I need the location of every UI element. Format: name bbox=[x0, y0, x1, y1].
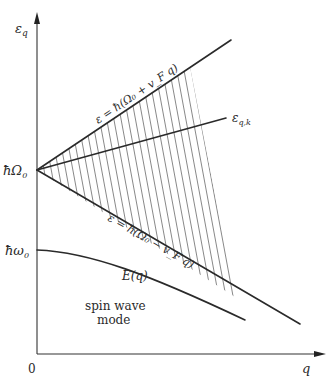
hatch-line bbox=[236, 40, 286, 310]
hatch-line bbox=[63, 40, 113, 310]
hatch-line bbox=[56, 40, 106, 310]
spin-wave-label: spin wave bbox=[85, 299, 146, 313]
hatch-line bbox=[42, 40, 92, 310]
hatch-line bbox=[250, 40, 300, 310]
hbar-Omega0-tick-label: ħΩ0 bbox=[3, 163, 27, 180]
hatch-line bbox=[171, 40, 221, 310]
upper-boundary-equation: ε = ħ(Ω₀ + v_F q) bbox=[92, 61, 180, 126]
x-axis-arrow-icon bbox=[314, 351, 326, 357]
hatch-line bbox=[229, 40, 279, 310]
hbar-omega0-tick-label: ħω0 bbox=[5, 243, 29, 260]
hatch-line bbox=[186, 40, 236, 310]
x-axis-label: q bbox=[302, 361, 310, 376]
origin-label: 0 bbox=[28, 362, 36, 376]
mode-label: mode bbox=[97, 313, 130, 327]
y-axis-label: εq bbox=[15, 21, 28, 38]
hatch-line bbox=[193, 40, 243, 310]
eps-qk-label: εq,k bbox=[232, 111, 251, 127]
hatch-line bbox=[214, 40, 264, 310]
hatch-line bbox=[78, 40, 128, 310]
spectrum-diagram: εq q 0 ħΩ0 ħω0 εq,k ε = ħ(Ω₀ + v_F q) ε … bbox=[0, 0, 336, 377]
hatch-line bbox=[27, 40, 77, 310]
hatch-line bbox=[207, 40, 257, 310]
hatch-line bbox=[49, 40, 99, 310]
hatch-line bbox=[70, 40, 120, 310]
hatch-line bbox=[243, 40, 293, 310]
E-q-label: E(q) bbox=[121, 269, 148, 283]
hatch-line bbox=[258, 40, 308, 310]
y-axis-arrow-icon bbox=[34, 12, 40, 24]
hatch-line bbox=[178, 40, 228, 310]
hatch-line bbox=[222, 40, 272, 310]
hatch-line bbox=[34, 40, 84, 310]
